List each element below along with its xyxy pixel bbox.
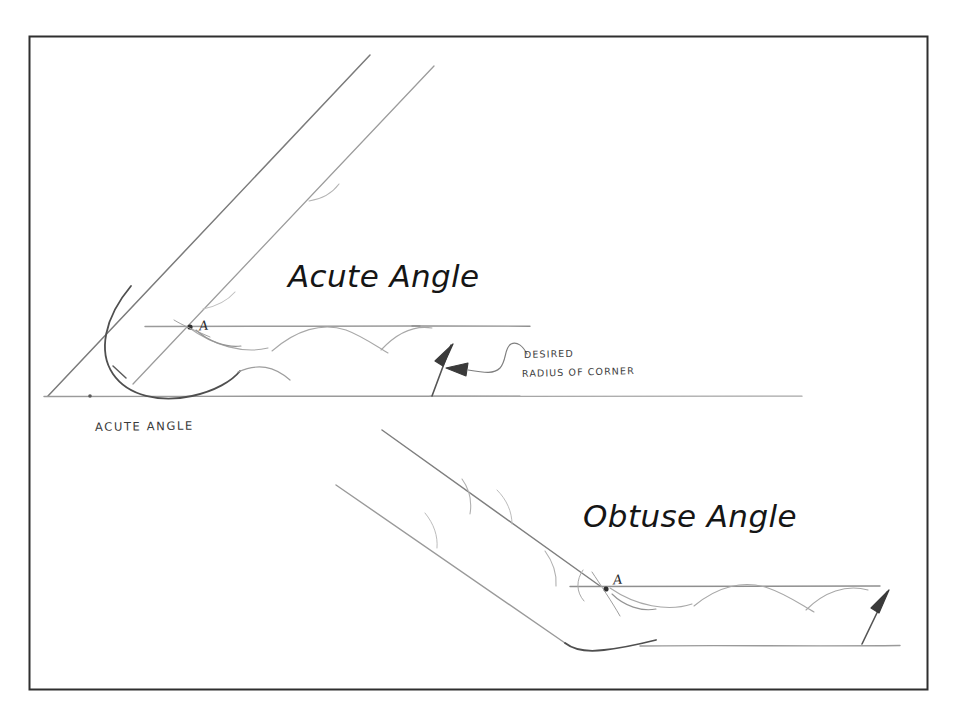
acute-leader-arrowhead (446, 363, 468, 376)
obtuse-inner-diagonal-line (382, 430, 600, 586)
acute-angle-diagram (44, 55, 802, 399)
acute-construction-sweep-3 (381, 327, 432, 350)
obtuse-diagonal-tick-2 (497, 490, 512, 524)
obtuse-vertex-cross-stroke (592, 572, 620, 616)
sketch-canvas: Acute Angle Obtuse Angle ACUTE ANGLE A A… (0, 0, 954, 718)
drawing-border (30, 37, 928, 690)
annotation-leader-line (468, 343, 527, 372)
sketch-drawing (0, 0, 954, 718)
acute-end-cap-arrowhead (435, 344, 453, 366)
acute-construction-sweep-2 (272, 327, 388, 353)
obtuse-construction-sweep-2 (694, 585, 814, 612)
acute-inner-diagonal-line (133, 66, 434, 384)
obtuse-construction-sweep-1 (610, 588, 692, 607)
acute-corner-radius-arc-tail (238, 367, 290, 380)
obtuse-inner-horizontal-line (570, 586, 880, 587)
obtuse-outer-horizontal-line (640, 646, 900, 647)
acute-construction-sweep-1 (188, 327, 268, 350)
acute-outer-diagonal-ray (48, 55, 370, 396)
obtuse-diagonal-tick-4 (425, 513, 437, 548)
obtuse-angle-diagram (336, 430, 900, 651)
obtuse-end-cap-arrowhead (871, 590, 889, 613)
acute-outer-vertex-dot (88, 394, 92, 398)
acute-diagonal-tick-lower (203, 292, 235, 309)
obtuse-diagonal-tick-1 (462, 479, 471, 514)
obtuse-diagonal-tick-3 (545, 551, 556, 586)
obtuse-construction-sweep-3 (806, 588, 868, 610)
obtuse-outer-diagonal-line (336, 485, 565, 643)
obtuse-vertex-small-arc (612, 594, 656, 610)
